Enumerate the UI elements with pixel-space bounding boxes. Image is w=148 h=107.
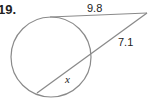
circle	[11, 17, 91, 97]
secant-segment	[37, 13, 147, 93]
secant-external-length-label: 7.1	[118, 36, 133, 48]
chord-variable-label: x	[64, 73, 70, 85]
problem-number: 19.	[0, 2, 16, 17]
diagram-canvas: 19. 9.8 7.1 x	[0, 0, 148, 107]
tangent-length-label: 9.8	[87, 2, 102, 14]
